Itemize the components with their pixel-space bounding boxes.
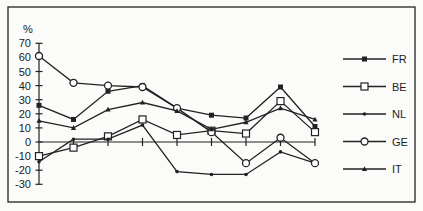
dot-marker-icon bbox=[141, 123, 145, 127]
dot-marker-icon bbox=[210, 173, 214, 177]
open-circle-marker-icon bbox=[139, 84, 146, 91]
legend-item-it: IT bbox=[343, 163, 402, 175]
filled-square-marker-icon bbox=[37, 103, 42, 108]
open-circle-marker-icon bbox=[361, 138, 368, 145]
filled-square-marker-icon bbox=[278, 85, 283, 90]
triangle-marker-icon bbox=[278, 105, 283, 110]
y-tick-label: 10 bbox=[19, 122, 31, 134]
filled-square-marker-icon bbox=[209, 113, 214, 118]
open-circle-marker-icon bbox=[243, 160, 250, 167]
dot-marker-icon bbox=[72, 137, 76, 141]
legend-item-ge: GE bbox=[343, 136, 408, 148]
legend-item-nl: NL bbox=[343, 108, 406, 120]
dot-marker-icon bbox=[363, 112, 367, 116]
open-circle-marker-icon bbox=[36, 52, 43, 59]
y-axis: 706050403020100-10-20-30 bbox=[15, 37, 42, 190]
legend-item-fr: FR bbox=[343, 53, 407, 65]
open-circle-marker-icon bbox=[312, 160, 319, 167]
dot-marker-icon bbox=[106, 137, 110, 141]
triangle-marker-icon bbox=[140, 100, 145, 105]
legend: FRBENLGEIT bbox=[343, 53, 408, 175]
legend-item-be: BE bbox=[343, 81, 407, 93]
open-square-marker-icon bbox=[70, 144, 77, 151]
open-square-marker-icon bbox=[277, 98, 284, 105]
y-axis-unit-label: % bbox=[23, 23, 33, 35]
open-square-marker-icon bbox=[312, 129, 319, 136]
plot-area bbox=[36, 52, 319, 176]
filled-square-marker-icon bbox=[362, 57, 367, 62]
y-tick-label: 50 bbox=[19, 66, 31, 78]
open-circle-marker-icon bbox=[277, 134, 284, 141]
dot-marker-icon bbox=[37, 160, 41, 164]
y-tick-label: 40 bbox=[19, 80, 31, 92]
legend-label: FR bbox=[392, 53, 407, 65]
y-tick-label: -30 bbox=[15, 178, 31, 190]
y-tick-label: 20 bbox=[19, 108, 31, 120]
y-tick-label: 70 bbox=[19, 37, 31, 49]
open-circle-marker-icon bbox=[105, 82, 112, 89]
open-square-marker-icon bbox=[361, 83, 368, 90]
open-square-marker-icon bbox=[139, 116, 146, 123]
y-tick-label: 30 bbox=[19, 94, 31, 106]
legend-label: GE bbox=[392, 136, 408, 148]
line-chart: 706050403020100-10-20-30 FRBENLGEIT % bbox=[0, 0, 423, 211]
legend-label: BE bbox=[392, 81, 407, 93]
y-tick-label: 0 bbox=[25, 136, 31, 148]
dot-marker-icon bbox=[279, 150, 283, 154]
y-tick-label: -10 bbox=[15, 150, 31, 162]
y-tick-label: 60 bbox=[19, 51, 31, 63]
y-tick-label: -20 bbox=[15, 164, 31, 176]
triangle-marker-icon bbox=[36, 118, 41, 123]
open-square-marker-icon bbox=[36, 153, 43, 160]
legend-label: NL bbox=[392, 108, 406, 120]
dot-marker-icon bbox=[175, 170, 179, 174]
open-square-marker-icon bbox=[243, 130, 250, 137]
filled-square-marker-icon bbox=[71, 117, 76, 122]
open-square-marker-icon bbox=[174, 131, 181, 138]
dot-marker-icon bbox=[244, 173, 248, 177]
open-circle-marker-icon bbox=[70, 79, 77, 86]
legend-label: IT bbox=[392, 163, 402, 175]
